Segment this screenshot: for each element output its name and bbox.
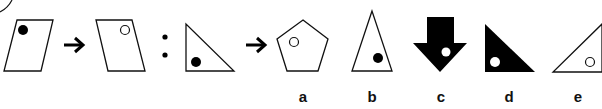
option-a-pentagon[interactable] <box>277 20 328 71</box>
premise-parallelogram <box>4 20 53 71</box>
analogy-separator <box>162 34 167 57</box>
option-b-label: b <box>362 88 382 105</box>
option-c-label: c <box>431 88 451 105</box>
white-dot <box>442 48 451 57</box>
hollow-dot <box>121 26 130 35</box>
arrow-right-icon <box>64 38 83 52</box>
premise-mirrored-parallelogram <box>96 20 145 71</box>
option-e-label: e <box>568 88 588 105</box>
analogy-puzzle: a b c d e <box>0 0 602 109</box>
premise-right-triangle <box>186 24 234 71</box>
corner-circle-fragment <box>0 0 12 12</box>
filled-dot <box>18 25 28 35</box>
filled-dot <box>373 53 383 63</box>
option-c-down-arrow[interactable] <box>413 17 467 72</box>
filled-dot <box>191 57 201 67</box>
white-dot <box>490 57 500 67</box>
option-d-black-triangle[interactable] <box>485 24 535 72</box>
hollow-dot <box>290 38 299 47</box>
arrow-right-icon <box>246 38 265 52</box>
option-d-label: d <box>499 88 519 105</box>
hollow-dot <box>586 58 595 67</box>
option-a-label: a <box>293 88 313 105</box>
option-e-mirrored-triangle[interactable] <box>553 24 602 72</box>
option-b-triangle[interactable] <box>352 11 392 71</box>
